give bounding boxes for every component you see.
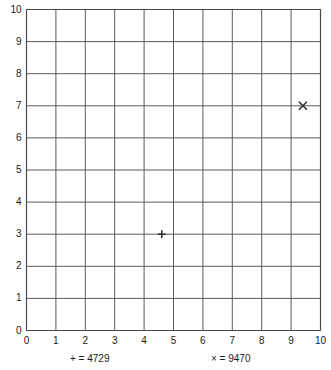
- y-tick-label: 8: [2, 69, 22, 79]
- gridlines: [27, 10, 321, 331]
- x-tick-label: 3: [105, 336, 125, 346]
- legend-cross-icon: × = 9470: [211, 353, 250, 365]
- x-tick-label: 7: [222, 336, 242, 346]
- x-tick-label: 1: [46, 336, 66, 346]
- legend-plus-icon: + = 4729: [70, 353, 109, 365]
- x-tick-label: 0: [17, 336, 37, 346]
- scatter-chart: 012345678910 012345678910 + = 4729 × = 9…: [0, 0, 331, 370]
- y-tick-label: 1: [2, 293, 22, 303]
- x-tick-label: 9: [281, 336, 301, 346]
- x-tick-label: 8: [252, 336, 272, 346]
- x-tick-label: 6: [193, 336, 213, 346]
- x-tick-label: 4: [134, 336, 154, 346]
- y-tick-label: 10: [2, 5, 22, 15]
- y-tick-label: 6: [2, 133, 22, 143]
- plot-area: [0, 0, 331, 370]
- y-tick-label: 4: [2, 197, 22, 207]
- data-point-4729: [158, 230, 166, 238]
- x-tick-label: 10: [311, 336, 331, 346]
- x-tick-label: 5: [164, 336, 184, 346]
- x-tick-label: 2: [75, 336, 95, 346]
- y-tick-label: 3: [2, 229, 22, 239]
- legend-item-9470: × = 9470: [211, 353, 250, 365]
- y-tick-label: 9: [2, 37, 22, 47]
- y-tick-label: 5: [2, 165, 22, 175]
- chart-legend: + = 4729 × = 9470: [0, 350, 331, 368]
- y-tick-label: 7: [2, 101, 22, 111]
- legend-item-4729: + = 4729: [70, 353, 109, 365]
- y-tick-label: 0: [2, 326, 22, 336]
- y-tick-label: 2: [2, 261, 22, 271]
